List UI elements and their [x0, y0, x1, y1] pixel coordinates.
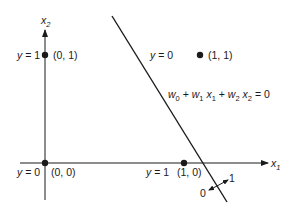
point-1-0-class-label: y = 1 — [145, 166, 169, 178]
point-0-0-coord-label: (0, 0) — [51, 166, 76, 178]
point-1-1-class-label: y = 0 — [149, 49, 173, 61]
point-0-0 — [42, 160, 48, 166]
point-1-0-coord-label: (1, 0) — [177, 166, 202, 178]
perceptron-diagram: x1 x2 y = 1 (0, 1) y = 0 (1, 1) y = 0 (0… — [0, 0, 296, 212]
x1-axis-label: x1 — [270, 157, 280, 172]
point-0-1 — [42, 52, 48, 58]
point-1-1-coord-label: (1, 1) — [208, 49, 233, 61]
point-1-1 — [197, 52, 203, 58]
boundary-equation: w0 + w1 x1 + w2 x2 = 0 — [168, 88, 270, 103]
decision-boundary-line — [112, 16, 227, 202]
side-arrow-positive — [217, 180, 228, 186]
x2-axis-label: x2 — [40, 14, 51, 29]
side-arrow-negative — [209, 186, 217, 190]
point-0-0-class-label: y = 0 — [16, 166, 40, 178]
side-label-positive: 1 — [229, 172, 235, 184]
side-label-negative: 0 — [200, 187, 206, 199]
point-0-1-coord-label: (0, 1) — [53, 49, 78, 61]
point-0-1-class-label: y = 1 — [16, 49, 40, 61]
